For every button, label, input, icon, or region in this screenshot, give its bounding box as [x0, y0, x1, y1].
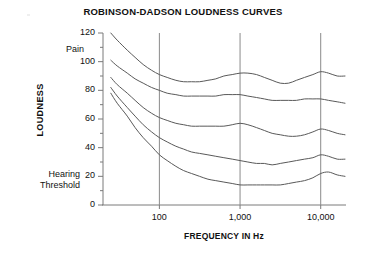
x-tick-label: 10,000 [291, 212, 351, 222]
y-tick-label: 0 [65, 199, 95, 209]
y-tick-label: 100 [65, 56, 95, 66]
loudness-curve [111, 33, 345, 84]
gridlines-group [159, 33, 320, 205]
axes-group [98, 33, 346, 209]
y-tick-label: 120 [65, 27, 95, 37]
y-tick-label: 20 [65, 170, 95, 180]
y-tick-label: 40 [65, 142, 95, 152]
x-tick-label: 1,000 [210, 212, 270, 222]
loudness-curve [111, 93, 345, 185]
curves-group [111, 33, 345, 185]
y-tick-label: 60 [65, 113, 95, 123]
loudness-curves-figure: ROBINSON-DADSON LOUDNESS CURVES LOUDNESS… [0, 0, 366, 260]
x-tick-label: 100 [129, 212, 189, 222]
y-tick-label: 80 [65, 84, 95, 94]
